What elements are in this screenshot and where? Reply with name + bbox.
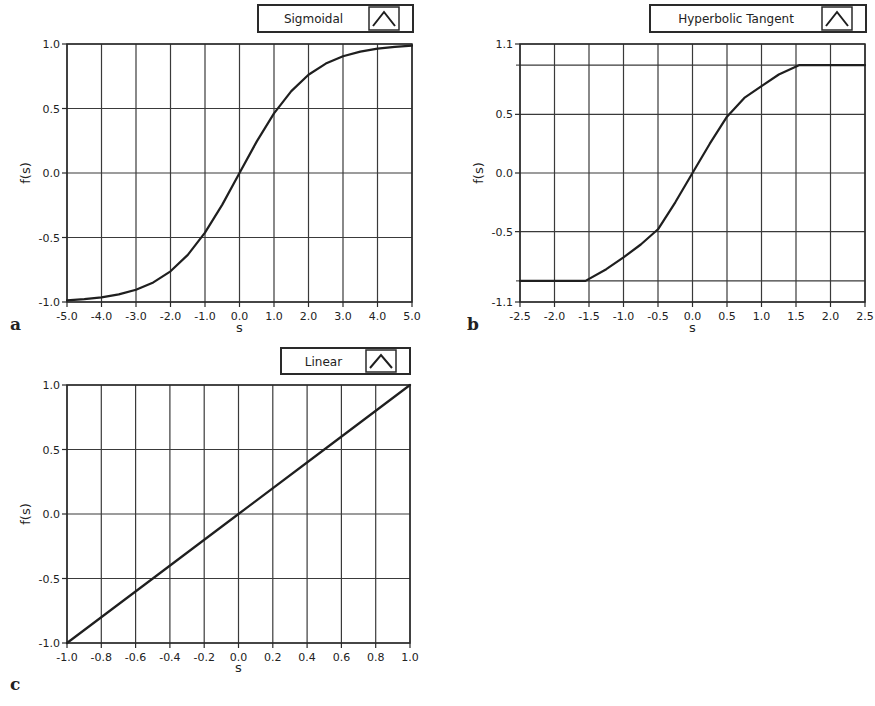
x-tick-label: -0.5: [647, 310, 668, 323]
x-tick-label: 0.2: [264, 651, 282, 664]
y-tick-label: -0.5: [39, 232, 60, 245]
legend-label: Linear: [305, 355, 342, 369]
y-axis-label: f(s): [471, 162, 486, 184]
y-tick-label: 1.1: [496, 38, 514, 51]
y-tick-label: 0.0: [43, 167, 61, 180]
plot-style-icon[interactable]: [822, 7, 852, 30]
x-tick-label: -0.4: [159, 651, 180, 664]
y-tick-label: -0.5: [492, 226, 513, 239]
legend-label: Sigmoidal: [284, 12, 343, 26]
x-tick-label: -2.5: [509, 310, 530, 323]
x-tick-label: 0.4: [298, 651, 316, 664]
x-tick-label: -4.0: [91, 310, 112, 323]
x-tick-label: 2.0: [300, 310, 318, 323]
x-tick-label: -0.8: [91, 651, 112, 664]
panel-letter: a: [10, 314, 21, 334]
y-tick-label: 0.5: [43, 444, 61, 457]
x-tick-label: -2.0: [544, 310, 565, 323]
x-tick-label: 1.5: [787, 310, 805, 323]
panel-letter: b: [467, 314, 479, 334]
x-axis-label: s: [235, 660, 242, 675]
x-tick-label: -1.0: [194, 310, 215, 323]
plot-style-icon[interactable]: [366, 350, 396, 372]
x-tick-label: -3.0: [125, 310, 146, 323]
x-tick-label: 0.8: [367, 651, 385, 664]
x-tick-label: -0.6: [125, 651, 146, 664]
plot-legend[interactable]: Sigmoidal: [258, 5, 413, 32]
y-tick-label: -1.0: [39, 637, 60, 650]
panel-a-sigmoidal: -5.0-4.0-3.0-2.0-1.00.01.02.03.04.05.01.…: [10, 5, 421, 335]
plot-legend[interactable]: Linear: [281, 348, 410, 374]
x-tick-label: 1.0: [265, 310, 283, 323]
y-axis-label: f(s): [18, 162, 33, 184]
legend-label: Hyperbolic Tangent: [678, 12, 794, 26]
x-tick-label: -2.0: [160, 310, 181, 323]
x-tick-label: -1.0: [56, 651, 77, 664]
figure: -5.0-4.0-3.0-2.0-1.00.01.02.03.04.05.01.…: [0, 0, 875, 706]
y-tick-label: -1.0: [39, 296, 60, 309]
y-tick-label: 0.5: [496, 108, 514, 121]
x-tick-label: 2.5: [856, 310, 874, 323]
y-tick-label: 0.0: [43, 508, 61, 521]
x-tick-label: 1.0: [401, 651, 419, 664]
y-tick-label: 0.0: [496, 167, 514, 180]
x-tick-label: 0.6: [333, 651, 351, 664]
y-tick-label: 1.0: [43, 38, 61, 51]
panel-letter: c: [10, 674, 20, 694]
y-tick-label: 1.0: [43, 379, 61, 392]
x-tick-label: 0.5: [718, 310, 736, 323]
x-tick-label: 2.0: [822, 310, 840, 323]
x-tick-label: -0.2: [193, 651, 214, 664]
y-tick-label: -0.5: [39, 573, 60, 586]
x-tick-label: 3.0: [334, 310, 352, 323]
x-tick-label: -5.0: [56, 310, 77, 323]
x-tick-label: -1.5: [578, 310, 599, 323]
y-tick-label: 0.5: [43, 103, 61, 116]
x-tick-label: 5.0: [403, 310, 421, 323]
plot-style-icon[interactable]: [369, 7, 399, 30]
x-tick-label: 4.0: [369, 310, 387, 323]
x-axis-label: s: [689, 320, 696, 335]
plot-legend[interactable]: Hyperbolic Tangent: [650, 5, 866, 32]
x-tick-label: 1.0: [753, 310, 771, 323]
y-tick-label: -1.1: [492, 296, 513, 309]
panel-c-linear: -1.0-0.8-0.6-0.4-0.20.00.20.40.60.81.01.…: [10, 348, 419, 694]
panel-b-hyperbolic-tangent: -2.5-2.0-1.5-1.0-0.50.00.51.01.52.02.51.…: [467, 5, 874, 335]
x-tick-label: -1.0: [613, 310, 634, 323]
x-axis-label: s: [236, 320, 243, 335]
y-axis-label: f(s): [18, 503, 33, 525]
